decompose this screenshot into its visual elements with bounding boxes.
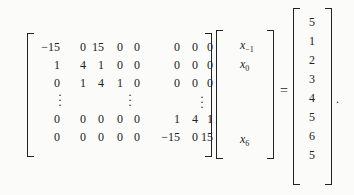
rhs-value: 5 (306, 110, 318, 125)
matrix-cell: 1 (66, 77, 86, 89)
rhs-value: 4 (306, 91, 318, 106)
matrix-cell: 0 (120, 131, 140, 143)
matrix-cell: −15 (40, 41, 60, 53)
matrix-cell: 0 (66, 113, 86, 125)
matrix-cell: 0 (40, 131, 60, 143)
matrix-cell: 15 (193, 131, 213, 143)
matrix-cell: 1 (40, 59, 60, 71)
rhs-value: 5 (306, 15, 318, 30)
matrix-cell: 1 (160, 113, 180, 125)
matrix-cell: 0 (84, 131, 104, 143)
equals-sign: = (280, 83, 288, 99)
rhs-value: 2 (306, 53, 318, 68)
matrix-cell: 0 (40, 77, 60, 89)
matrix-cell: 0 (66, 131, 86, 143)
unknown-x6: x6 (240, 132, 249, 148)
matrix-cell: 0 (193, 77, 213, 89)
matrix-cell: 0 (40, 113, 60, 125)
vector-left-bracket (216, 30, 223, 159)
rhs-value: 5 (306, 148, 318, 163)
matrix-cell: 0 (160, 41, 180, 53)
vector-right-bracket (267, 30, 274, 159)
matrix-cell: 1 (84, 59, 104, 71)
matrix-cell: 0 (120, 41, 140, 53)
matrix-cell: 1 (193, 113, 213, 125)
matrix-cell: 4 (66, 59, 86, 71)
vertical-ellipsis: ··· (56, 93, 64, 108)
matrix-cell: 0 (120, 59, 140, 71)
unknown-x-minus1: x−1 (240, 38, 254, 54)
matrix-cell: 0 (193, 41, 213, 53)
matrix-left-bracket (27, 33, 34, 157)
matrix-cell: 0 (160, 59, 180, 71)
vertical-ellipsis: ··· (198, 95, 206, 110)
matrix-cell: 0 (120, 113, 140, 125)
rhs-left-bracket (293, 8, 300, 185)
matrix-cell: −15 (160, 131, 180, 143)
rhs-right-bracket (325, 8, 332, 185)
rhs-value: 1 (306, 34, 318, 49)
matrix-cell: 0 (160, 77, 180, 89)
matrix-cell: 0 (193, 59, 213, 71)
vertical-ellipsis: ··· (126, 93, 134, 108)
matrix-cell: 0 (84, 113, 104, 125)
matrix-cell: 15 (84, 41, 104, 53)
rhs-value: 3 (306, 72, 318, 87)
matrix-cell: 4 (84, 77, 104, 89)
rhs-value: 6 (306, 129, 318, 144)
matrix-cell: 0 (66, 41, 86, 53)
unknown-x0: x0 (240, 57, 249, 73)
period: . (336, 92, 339, 107)
